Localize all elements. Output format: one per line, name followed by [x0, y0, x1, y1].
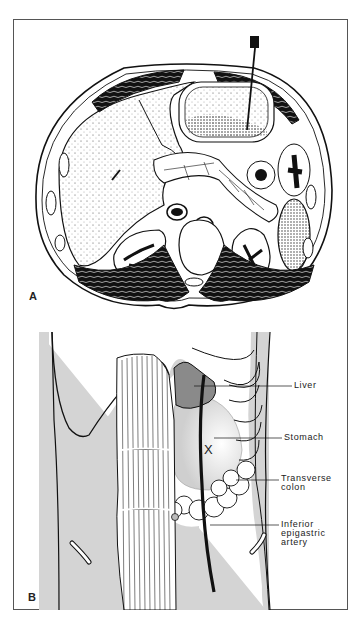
spleen [278, 199, 310, 271]
panel-a: A [13, 19, 348, 310]
liver [174, 362, 216, 408]
label-transverse-colon: Transverse colon [281, 474, 332, 492]
label-inferior-epigastric-artery: Inferior epigastric artery [281, 520, 326, 547]
needle-hub [250, 36, 259, 48]
spinal-canal [185, 278, 203, 286]
panel-b: X Liver Stomach Transverse colon Inferio… [13, 310, 348, 610]
anterior-abdominal-wall [14, 310, 349, 610]
axial-cross-section [14, 20, 349, 311]
panel-letter-b: B [28, 591, 36, 603]
x-marker: X [204, 442, 213, 457]
label-stomach: Stomach [284, 433, 324, 442]
vessel-perforator [172, 514, 179, 521]
label-liver: Liver [294, 381, 317, 390]
panel-letter-a: A [29, 290, 37, 302]
